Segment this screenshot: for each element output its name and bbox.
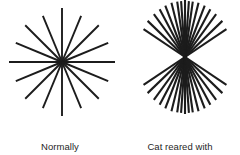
figure-root: Normally reared cat Cat reared with vert… bbox=[0, 0, 240, 155]
caption-line-1: Cat reared with bbox=[120, 141, 240, 153]
panel-normally-reared-cat: Normally reared cat bbox=[0, 0, 120, 155]
orientation-ray bbox=[25, 25, 62, 62]
panel-cat-reared-with-vertical-stripes: Cat reared with vertical stripes bbox=[120, 0, 240, 155]
orientation-ray bbox=[62, 62, 99, 99]
orientation-rosette-vertical-stripes bbox=[120, 0, 240, 118]
orientation-ray bbox=[148, 57, 185, 93]
caption-line-1: Normally bbox=[0, 141, 120, 153]
orientation-ray bbox=[25, 62, 62, 99]
caption-normally-reared-cat: Normally reared cat bbox=[0, 118, 120, 155]
orientation-ray bbox=[185, 21, 222, 57]
orientation-rosette-normal bbox=[0, 0, 120, 118]
orientation-ray bbox=[62, 25, 99, 62]
caption-cat-reared-with-vertical-stripes: Cat reared with vertical stripes bbox=[120, 118, 240, 155]
orientation-ray bbox=[185, 57, 222, 93]
orientation-ray bbox=[148, 21, 185, 57]
